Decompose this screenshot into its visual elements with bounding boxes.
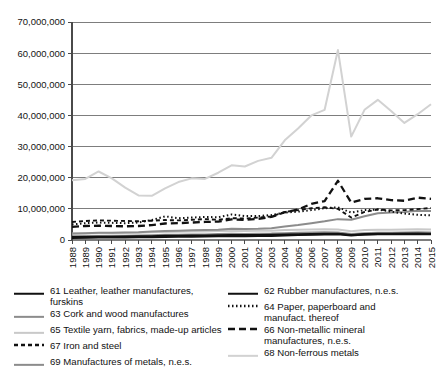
x-axis-tick-label: 1992	[120, 247, 131, 268]
legend-label-69: 69 Manufactures of metals, n.e.s.	[50, 357, 192, 368]
x-axis-tick-label: 2014	[412, 247, 423, 268]
x-axis-tick-label: 1990	[93, 247, 104, 268]
y-axis-tick-label: 60,000,000	[17, 48, 65, 59]
legend-label-62: 62 Rubber manufactures, n.e.s.	[264, 286, 398, 297]
legend-label-66: 66 Non-metallic mineral manufactures, n.…	[264, 325, 365, 346]
x-axis-tick-label: 2006	[306, 247, 317, 268]
legend-item-63[interactable]: 63 Cork and wood manufactures	[14, 309, 222, 323]
plot-area: 010,000,00020,000,00030,000,00040,000,00…	[0, 0, 442, 285]
chart-root: 010,000,00020,000,00030,000,00040,000,00…	[0, 0, 442, 376]
legend-item-65[interactable]: 65 Textile yarn, fabrics, made-up articl…	[14, 325, 222, 339]
legend-column-right: 62 Rubber manufactures, n.e.s.64 Paper, …	[222, 286, 442, 376]
x-axis-tick-label: 1993	[133, 247, 144, 268]
x-axis-tick-label: 1988	[67, 247, 78, 268]
series-line-68	[72, 50, 431, 196]
legend-swatch-67-icon	[14, 342, 44, 355]
legend-item-68[interactable]: 68 Non-ferrous metals	[228, 348, 442, 362]
y-axis-tick-label: 0	[60, 234, 65, 245]
x-axis-tick-label: 2009	[346, 247, 357, 268]
legend-label-65: 65 Textile yarn, fabrics, made-up articl…	[50, 325, 222, 336]
x-axis-tick-label: 2007	[319, 247, 330, 268]
x-axis-tick-label: 1995	[160, 247, 171, 268]
x-axis-tick-label: 1994	[146, 247, 157, 268]
x-axis-tick-label: 2012	[386, 247, 397, 268]
x-axis-tick-label: 2010	[359, 247, 370, 268]
legend-item-67[interactable]: 67 Iron and steel	[14, 341, 222, 355]
y-axis-tick-label: 40,000,000	[17, 110, 65, 121]
y-axis-tick-label: 70,000,000	[17, 16, 65, 27]
x-axis-tick-label: 2011	[372, 247, 383, 267]
y-axis-tick-label: 20,000,000	[17, 172, 65, 183]
legend-item-61[interactable]: 61 Leather, leather manufactures, furski…	[14, 286, 222, 307]
legend-item-64[interactable]: 64 Paper, paperboard and manufact. there…	[228, 302, 442, 323]
series-line-64	[72, 207, 431, 224]
x-axis-tick-label: 2013	[399, 247, 410, 268]
y-axis-tick-label: 50,000,000	[17, 79, 65, 90]
legend-column-left: 61 Leather, leather manufactures, furski…	[0, 286, 222, 376]
legend-swatch-64-icon	[228, 303, 258, 316]
legend-label-67: 67 Iron and steel	[50, 341, 121, 352]
x-axis-tick-label: 2015	[426, 247, 437, 268]
legend-label-61: 61 Leather, leather manufactures, furski…	[50, 286, 222, 307]
x-axis-tick-label: 2004	[279, 247, 290, 268]
legend-item-62[interactable]: 62 Rubber manufactures, n.e.s.	[228, 286, 442, 300]
x-axis-tick-label: 1991	[106, 247, 117, 268]
x-axis-tick-label: 2002	[253, 247, 264, 268]
legend-swatch-62-icon	[228, 287, 258, 300]
legend-swatch-68-icon	[228, 349, 258, 362]
x-axis-tick-label: 2008	[333, 247, 344, 268]
x-axis-tick-label: 2001	[239, 247, 250, 268]
line-chart-svg: 010,000,00020,000,00030,000,00040,000,00…	[0, 0, 442, 285]
y-axis-tick-label: 10,000,000	[17, 203, 65, 214]
legend-swatch-69-icon	[14, 358, 44, 371]
x-axis-tick-label: 1997	[186, 247, 197, 268]
legend-swatch-61-icon	[14, 287, 44, 300]
legend-item-66[interactable]: 66 Non-metallic mineral manufactures, n.…	[228, 325, 442, 346]
x-axis-tick-label: 1996	[173, 247, 184, 268]
legend-swatch-66-icon	[228, 326, 258, 339]
legend-label-64: 64 Paper, paperboard and manufact. there…	[264, 302, 376, 323]
legend-label-63: 63 Cork and wood manufactures	[50, 309, 189, 320]
legend-swatch-65-icon	[14, 326, 44, 339]
x-axis-tick-label: 1999	[213, 247, 224, 268]
chart-legend: 61 Leather, leather manufactures, furski…	[0, 286, 442, 376]
x-axis-tick-label: 1989	[80, 247, 91, 268]
legend-label-68: 68 Non-ferrous metals	[264, 348, 359, 359]
x-axis-tick-label: 2000	[226, 247, 237, 268]
x-axis-tick-label: 2005	[293, 247, 304, 268]
x-axis-tick-label: 2003	[266, 247, 277, 268]
legend-item-69[interactable]: 69 Manufactures of metals, n.e.s.	[14, 357, 222, 371]
x-axis-tick-label: 1998	[200, 247, 211, 268]
y-axis-tick-label: 30,000,000	[17, 141, 65, 152]
legend-swatch-63-icon	[14, 310, 44, 323]
